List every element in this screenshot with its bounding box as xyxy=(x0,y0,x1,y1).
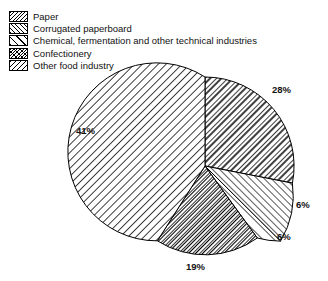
pie-value-label-chemical-industries: 6% xyxy=(277,231,291,242)
pie-value-label-paper: 28% xyxy=(272,84,291,95)
pie-value-label-confectionery: 19% xyxy=(186,261,205,272)
pie-chart-figure: Paper Corrugated paperboard Chemical, fe… xyxy=(0,0,328,281)
pie-value-label-corrugated-paperboard: 6% xyxy=(296,199,310,210)
pie-plot-area: 28% 6% 6% 19% 41% xyxy=(0,0,328,281)
pie-value-label-other-food-industry: 41% xyxy=(76,125,95,136)
